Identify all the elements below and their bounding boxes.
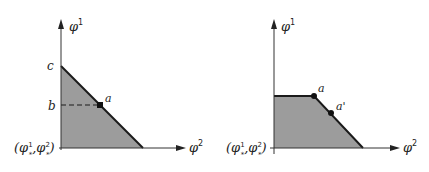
left-diagram: φ1 φ2 c b a (φ1*,φ2*) — [14, 18, 203, 159]
y-axis-label: φ1 — [69, 18, 83, 34]
y-axis-arrow-icon — [271, 19, 277, 29]
y-axis-label: φ1 — [281, 18, 295, 34]
point-a-marker — [311, 93, 317, 99]
x-axis-label: φ2 — [403, 139, 417, 155]
y-axis-arrow-icon — [58, 19, 64, 29]
point-a-prime-label: a' — [336, 100, 346, 113]
right-diagram: φ1 φ2 a a' (φ1*,φ2*) — [226, 18, 417, 159]
x-axis-label: φ2 — [189, 139, 203, 155]
point-a-label: a — [105, 92, 112, 105]
tick-label-b: b — [48, 99, 56, 113]
point-a-marker — [97, 102, 103, 108]
x-axis-arrow-icon — [176, 145, 186, 151]
diagram-canvas: φ1 φ2 c b a (φ1*,φ2*) φ1 φ2 a a' (φ1*,φ2… — [0, 0, 429, 172]
origin-label: (φ1*,φ2*) — [14, 140, 54, 159]
origin-label: (φ1*,φ2*) — [226, 140, 266, 159]
point-a-label: a — [318, 82, 325, 95]
x-axis-arrow-icon — [390, 145, 400, 151]
point-a-prime-marker — [328, 110, 334, 116]
tick-label-c: c — [47, 59, 54, 73]
feasible-region-polygon — [274, 96, 363, 148]
